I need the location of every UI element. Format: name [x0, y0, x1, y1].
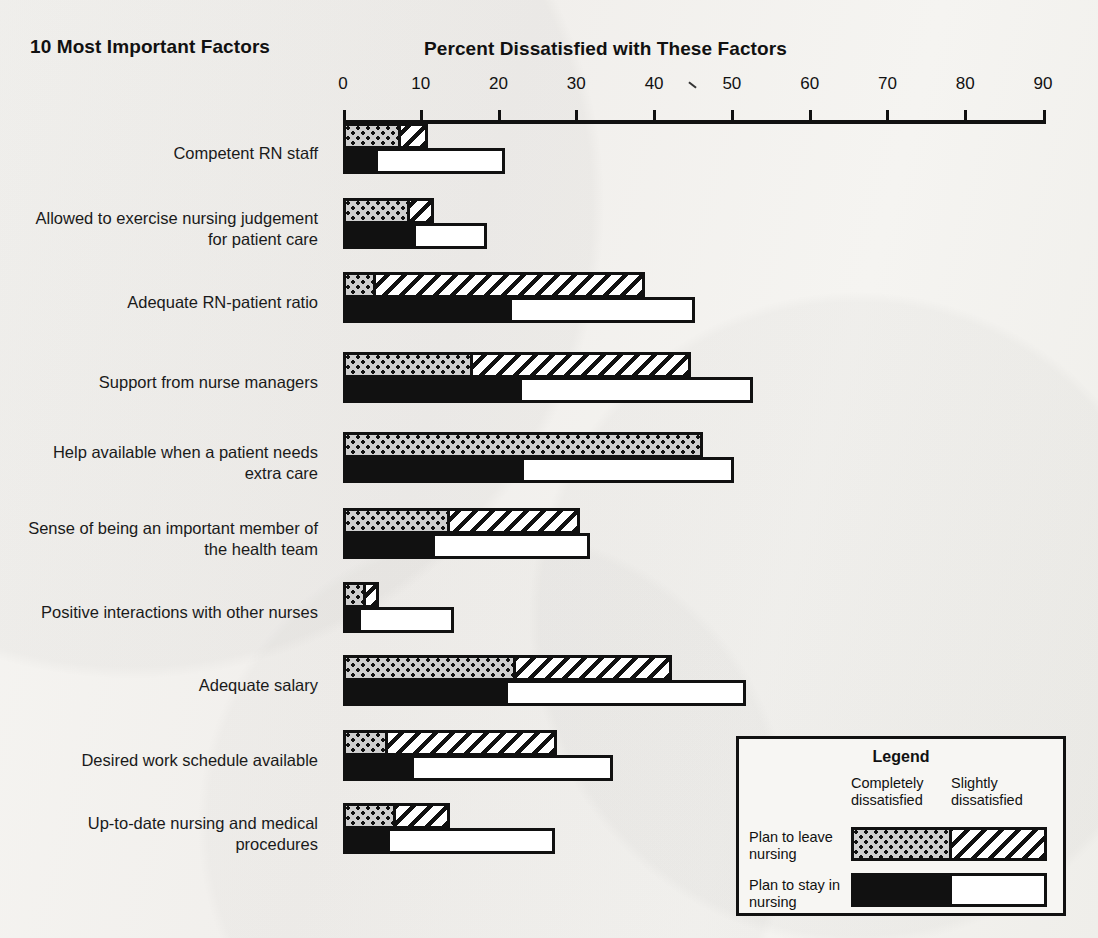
- category-label-line: Up-to-date nursing and medical: [0, 813, 318, 834]
- category-label: Up-to-date nursing and medicalprocedures: [0, 813, 318, 855]
- segment-stay-slightly-dissatisfied: [411, 758, 611, 778]
- segment-stay-completely-dissatisfied: [346, 831, 387, 851]
- bar-plan-to-leave: [343, 803, 450, 829]
- legend-row-label-plan-to-leave: Plan to leave nursing: [749, 829, 847, 863]
- bar-plan-to-stay: [343, 680, 746, 706]
- legend-swatch-black: [854, 876, 949, 904]
- segment-leave-completely-dissatisfied: [346, 355, 470, 375]
- stray-ink-mark: [688, 81, 696, 88]
- segment-leave-completely-dissatisfied: [346, 435, 700, 455]
- category-label-line: for patient care: [0, 229, 318, 250]
- x-axis-tick-label-10: 10: [411, 74, 430, 94]
- segment-stay-completely-dissatisfied: [346, 610, 358, 630]
- category-label-line: extra care: [0, 463, 318, 484]
- bar-plan-to-stay: [343, 828, 555, 854]
- segment-stay-slightly-dissatisfied: [521, 460, 731, 480]
- segment-stay-slightly-dissatisfied: [519, 380, 750, 400]
- x-axis-tick-80: [964, 110, 967, 122]
- category-label: Desired work schedule available: [0, 750, 318, 771]
- segment-leave-completely-dissatisfied: [346, 126, 398, 146]
- category-label-line: Support from nurse managers: [0, 372, 318, 393]
- segment-stay-completely-dissatisfied: [346, 300, 509, 320]
- x-axis-tick-10: [420, 110, 423, 122]
- legend-swatch-white: [949, 876, 1044, 904]
- bar-plan-to-leave: [343, 508, 580, 534]
- segment-stay-slightly-dissatisfied: [387, 831, 552, 851]
- axis-line: [343, 120, 1046, 124]
- legend: Legend Completely dissatisfied Slightly …: [736, 736, 1066, 916]
- legend-row-label-plan-to-stay: Plan to stay in nursing: [749, 877, 847, 911]
- x-axis: 0102030405060708090: [0, 0, 1098, 130]
- bar-plan-to-stay: [343, 457, 734, 483]
- segment-leave-slightly-dissatisfied: [398, 126, 424, 146]
- segment-stay-completely-dissatisfied: [346, 380, 519, 400]
- bar-plan-to-leave: [343, 432, 703, 458]
- segment-stay-completely-dissatisfied: [346, 151, 375, 171]
- bar-plan-to-stay: [343, 377, 753, 403]
- segment-stay-slightly-dissatisfied: [375, 151, 502, 171]
- x-axis-tick-50: [731, 110, 734, 122]
- x-axis-tick-label-80: 80: [956, 74, 975, 94]
- x-axis-tick-label-60: 60: [800, 74, 819, 94]
- segment-stay-completely-dissatisfied: [346, 758, 411, 778]
- segment-leave-slightly-dissatisfied: [447, 511, 577, 531]
- bar-plan-to-stay: [343, 755, 613, 781]
- category-label: Adequate salary: [0, 675, 318, 696]
- category-label-line: Competent RN staff: [0, 143, 318, 164]
- horizontal-bar-chart: 10 Most Important Factors Percent Dissat…: [0, 0, 1098, 938]
- bar-plan-to-leave: [343, 272, 645, 298]
- segment-stay-completely-dissatisfied: [346, 536, 432, 556]
- category-label-line: Help available when a patient needs: [0, 442, 318, 463]
- segment-leave-completely-dissatisfied: [346, 511, 447, 531]
- bar-plan-to-leave: [343, 198, 434, 224]
- bar-plan-to-stay: [343, 148, 505, 174]
- legend-swatch-dotted: [854, 830, 949, 858]
- segment-stay-completely-dissatisfied: [346, 683, 505, 703]
- x-axis-tick-60: [809, 110, 812, 122]
- segment-stay-completely-dissatisfied: [346, 226, 413, 246]
- bar-plan-to-leave: [343, 582, 379, 608]
- segment-leave-slightly-dissatisfied: [407, 201, 431, 221]
- bar-plan-to-stay: [343, 607, 454, 633]
- segment-stay-slightly-dissatisfied: [358, 610, 451, 630]
- category-label-line: Adequate RN-patient ratio: [0, 292, 318, 313]
- bar-plan-to-leave: [343, 655, 672, 681]
- segment-leave-slightly-dissatisfied: [373, 275, 641, 295]
- segment-leave-completely-dissatisfied: [346, 585, 363, 605]
- legend-swatch-plan-to-stay: [851, 873, 1047, 907]
- x-axis-tick-label-40: 40: [645, 74, 664, 94]
- segment-leave-slightly-dissatisfied: [470, 355, 688, 375]
- category-label: Support from nurse managers: [0, 372, 318, 393]
- segment-stay-slightly-dissatisfied: [509, 300, 692, 320]
- legend-column-completely-dissatisfied: Completely dissatisfied: [851, 775, 939, 809]
- axis-cap-left: [343, 110, 346, 124]
- legend-column-slightly-dissatisfied: Slightly dissatisfied: [951, 775, 1039, 809]
- x-axis-tick-label-0: 0: [338, 74, 347, 94]
- category-label: Sense of being an important member ofthe…: [0, 518, 318, 560]
- category-label: Competent RN staff: [0, 143, 318, 164]
- legend-title: Legend: [739, 748, 1063, 766]
- segment-leave-completely-dissatisfied: [346, 733, 385, 753]
- category-label-line: Sense of being an important member of: [0, 518, 318, 539]
- x-axis-tick-70: [886, 110, 889, 122]
- segment-leave-completely-dissatisfied: [346, 201, 407, 221]
- segment-leave-completely-dissatisfied: [346, 806, 393, 826]
- category-label-line: procedures: [0, 834, 318, 855]
- x-axis-tick-20: [498, 110, 501, 122]
- bar-plan-to-leave: [343, 123, 428, 149]
- x-axis-tick-40: [653, 110, 656, 122]
- segment-leave-completely-dissatisfied: [346, 658, 513, 678]
- legend-swatch-plan-to-leave: [851, 827, 1047, 861]
- x-axis-tick-label-90: 90: [1034, 74, 1053, 94]
- segment-leave-slightly-dissatisfied: [513, 658, 669, 678]
- category-label-line: the health team: [0, 539, 318, 560]
- category-label-line: Allowed to exercise nursing judgement: [0, 208, 318, 229]
- segment-leave-slightly-dissatisfied: [385, 733, 555, 753]
- segment-leave-slightly-dissatisfied: [363, 585, 375, 605]
- segment-leave-slightly-dissatisfied: [393, 806, 447, 826]
- segment-stay-slightly-dissatisfied: [432, 536, 588, 556]
- category-label: Adequate RN-patient ratio: [0, 292, 318, 313]
- x-axis-tick-30: [575, 110, 578, 122]
- bar-plan-to-stay: [343, 297, 695, 323]
- category-label-line: Desired work schedule available: [0, 750, 318, 771]
